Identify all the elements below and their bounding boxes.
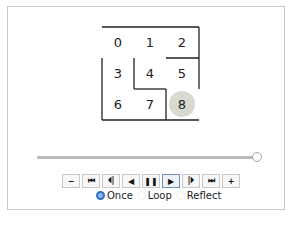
radio-label: Once [107, 190, 133, 201]
play-reverse-button[interactable]: ◀ [122, 174, 140, 188]
radio-button[interactable] [176, 191, 185, 200]
step-forward-button[interactable]: |⏵ [182, 174, 200, 188]
cell-label-1: 1 [134, 35, 166, 51]
play-icon: ▶ [168, 177, 174, 186]
cell-label-5: 5 [166, 66, 198, 82]
faster-button[interactable]: + [222, 174, 240, 188]
radio-label: Reflect [187, 190, 222, 201]
loop-option-loop[interactable]: Loop [137, 190, 172, 201]
step-back-icon: ⏴| [108, 176, 115, 186]
loop-mode-group: OnceLoopReflect [96, 190, 225, 201]
play-reverse-icon: ◀ [128, 177, 134, 186]
frame-slider-thumb[interactable] [252, 152, 262, 162]
pause-button[interactable]: ❚❚ [142, 174, 160, 188]
cell-label-4: 4 [134, 66, 166, 82]
cell-label-8: 8 [166, 97, 198, 113]
cell-label-3: 3 [102, 66, 134, 82]
minus-icon: − [68, 177, 75, 186]
first-frame-button[interactable]: ⏮ [82, 174, 100, 188]
step-back-button[interactable]: ⏴| [102, 174, 120, 188]
last-frame-button[interactable]: ⏭ [202, 174, 220, 188]
radio-button[interactable] [137, 191, 146, 200]
play-button[interactable]: ▶ [162, 174, 180, 188]
frame-slider-track[interactable] [37, 156, 257, 159]
cell-label-0: 0 [102, 35, 134, 51]
radio-label: Loop [148, 190, 172, 201]
loop-option-reflect[interactable]: Reflect [176, 190, 222, 201]
playback-controls: −⏮⏴|◀❚❚▶|⏵⏭+ [62, 174, 240, 188]
slower-button[interactable]: − [62, 174, 80, 188]
radio-button[interactable] [96, 191, 105, 200]
plus-icon: + [228, 177, 235, 186]
pause-icon: ❚❚ [144, 177, 157, 186]
cell-label-7: 7 [134, 97, 166, 113]
cell-label-6: 6 [102, 97, 134, 113]
cell-label-2: 2 [166, 35, 198, 51]
skip-last-icon: ⏭ [208, 176, 215, 186]
loop-option-once[interactable]: Once [96, 190, 133, 201]
step-forward-icon: |⏵ [188, 176, 195, 186]
skip-first-icon: ⏮ [88, 176, 95, 186]
